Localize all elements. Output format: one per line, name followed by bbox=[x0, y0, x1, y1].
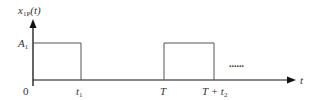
x-axis-label: t bbox=[300, 74, 304, 86]
pulse-diagram: x1P(t) A1 0 t1 T T + t2 ...... t bbox=[0, 0, 313, 100]
pulse-1 bbox=[33, 43, 81, 80]
y-axis-label: x1P(t) bbox=[17, 4, 41, 18]
tick-label-T-plus-t2: T + t2 bbox=[202, 85, 228, 99]
x-axis-arrow-icon bbox=[287, 77, 296, 84]
continuation-dots: ...... bbox=[229, 58, 245, 69]
pulse-2 bbox=[164, 43, 214, 80]
y-axis-arrow-icon bbox=[30, 19, 37, 28]
origin-label: 0 bbox=[23, 85, 29, 97]
tick-label-t1: t1 bbox=[76, 85, 83, 99]
amplitude-label: A1 bbox=[17, 37, 29, 51]
tick-label-T: T bbox=[160, 85, 167, 97]
